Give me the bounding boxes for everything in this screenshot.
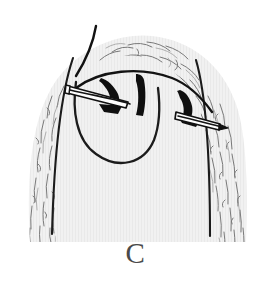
figure-panel: C [0, 0, 271, 281]
panel-label: C [0, 238, 271, 268]
scalp-dome [29, 35, 247, 242]
